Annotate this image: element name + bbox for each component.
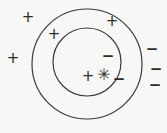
minus-marker-2: − <box>113 72 126 87</box>
minus-marker-5: − <box>149 78 162 93</box>
minus-marker-3: − <box>146 42 159 57</box>
star-marker-1: ✳ <box>97 67 110 83</box>
plus-marker-5: + <box>82 69 95 84</box>
concentric-circles-diagram: +++++−−−−−✳ <box>0 0 167 133</box>
plus-marker-3: + <box>7 51 20 66</box>
minus-marker-1: − <box>102 49 115 64</box>
plus-marker-1: + <box>22 10 35 25</box>
plus-marker-4: + <box>106 14 119 29</box>
plus-marker-2: + <box>48 27 61 42</box>
minus-marker-4: − <box>150 62 163 77</box>
